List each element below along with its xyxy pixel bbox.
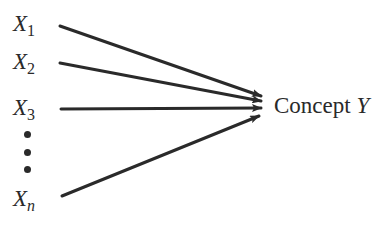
- arrow-xn: [62, 116, 259, 196]
- ellipsis-dot-2: [24, 149, 31, 156]
- arrow-x1: [60, 26, 261, 96]
- input-x2: X2: [13, 50, 35, 73]
- input-x3: X3: [13, 96, 35, 119]
- target-concept: Concept Y: [274, 93, 369, 119]
- arrow-x2: [60, 63, 261, 101]
- concept-variable: Y: [356, 93, 369, 118]
- input-x1: X1: [13, 12, 35, 35]
- concept-label: Concept: [274, 93, 351, 118]
- input-xn: Xn: [13, 187, 35, 210]
- arrow-x3: [61, 108, 261, 109]
- ellipsis-dot-3: [24, 166, 31, 173]
- ellipsis-dot-1: [24, 131, 31, 138]
